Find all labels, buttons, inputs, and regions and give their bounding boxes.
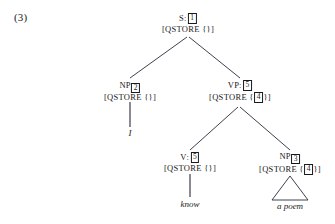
node-np-subject-feature-line: [QSTORE {}] [104, 93, 156, 102]
node-v-tag: 5 [190, 152, 199, 163]
tree-node-np-subject: NP2 [QSTORE {}] [104, 81, 156, 102]
node-np-object-qstore-close: }] [313, 164, 321, 174]
edge-s-np [130, 37, 187, 78]
example-number-label: (3) [14, 11, 27, 23]
node-vp-tag: 5 [243, 80, 252, 91]
node-v-category-line: V:5 [164, 152, 216, 163]
edge-vp-v [190, 107, 238, 150]
node-s-tag: 1 [188, 13, 197, 24]
tree-node-vp: VP:5 [QSTORE {4}] [209, 80, 271, 103]
node-np-subject-category: NP [119, 80, 130, 90]
edge-s-vp [189, 37, 240, 78]
node-v-qstore-close: }] [209, 163, 217, 173]
node-np-object-qstore-open: [QSTORE { [259, 164, 304, 174]
node-v-feature-line: [QSTORE {}] [164, 164, 216, 173]
node-vp-category: VP [228, 80, 239, 90]
node-np-object-category: NP [279, 151, 290, 161]
node-s-colon: : [184, 13, 186, 23]
tree-node-np-object: NP3 [QSTORE {4}] [259, 152, 321, 175]
tree-node-s: S:1 [QSTORE {}] [162, 13, 214, 34]
tree-node-v: V:5 [QSTORE {}] [164, 152, 216, 173]
np-triangle [272, 176, 308, 200]
node-np-subject-qstore-close: }] [149, 92, 157, 102]
terminal-word-i: I [129, 128, 132, 138]
edge-vp-np [240, 107, 290, 150]
terminal-word-a-poem: a poem [277, 201, 303, 211]
node-np-object-feature-line: [QSTORE {4}] [259, 164, 321, 175]
node-s-feature-line: [QSTORE {}] [162, 25, 214, 34]
node-vp-qstore-contents: 4 [254, 92, 263, 103]
terminal-word-know: know [181, 199, 200, 209]
node-v-category: V [180, 152, 186, 162]
node-v-colon: : [187, 152, 189, 162]
node-vp-category-line: VP:5 [209, 80, 271, 91]
node-np-subject-qstore-open: [QSTORE { [104, 92, 149, 102]
node-np-object-qstore-contents: 4 [304, 164, 313, 175]
node-np-subject-category-line: NP2 [104, 81, 156, 92]
node-s-qstore-close: }] [207, 24, 215, 34]
node-s-category-line: S:1 [162, 13, 214, 24]
node-s-qstore-open: [QSTORE { [162, 24, 207, 34]
syntax-tree-figure: (3) S:1 [QSTORE {}] NP2 [QSTORE {}] VP:5… [0, 0, 335, 224]
node-np-object-category-line: NP3 [259, 152, 321, 163]
node-np-object-tag: 3 [291, 154, 300, 165]
node-vp-colon: : [239, 80, 241, 90]
node-vp-qstore-close: }] [263, 92, 271, 102]
node-vp-feature-line: [QSTORE {4}] [209, 92, 271, 103]
node-vp-qstore-open: [QSTORE { [209, 92, 254, 102]
node-v-qstore-open: [QSTORE { [164, 163, 209, 173]
